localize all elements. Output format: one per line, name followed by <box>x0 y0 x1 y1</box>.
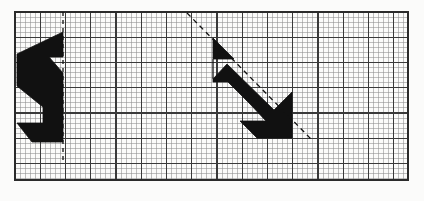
worksheet-page <box>0 0 424 201</box>
graph-paper-figure <box>0 0 424 201</box>
